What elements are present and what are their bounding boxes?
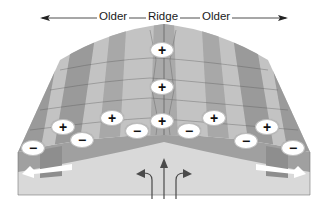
normal-polarity-marker: + (150, 79, 174, 95)
label-ridge: Ridge (146, 9, 180, 23)
label-older-right: Older (200, 9, 232, 23)
reversed-polarity-marker: − (21, 140, 45, 156)
normal-polarity-marker: + (150, 113, 174, 129)
normal-polarity-marker: + (100, 110, 124, 126)
normal-polarity-marker: + (150, 42, 174, 58)
normal-polarity-marker: + (51, 119, 75, 135)
normal-polarity-marker: + (255, 119, 279, 135)
reversed-polarity-marker: − (281, 140, 305, 156)
block-diagram (0, 0, 328, 209)
reversed-polarity-marker: − (70, 132, 94, 148)
seafloor-spreading-diagram: Older Ridge Older +++++++−−−−−− (0, 0, 328, 209)
reversed-polarity-marker: − (234, 133, 258, 149)
label-older-left: Older (97, 9, 129, 23)
reversed-polarity-marker: − (125, 123, 149, 139)
normal-polarity-marker: + (202, 110, 226, 126)
reversed-polarity-marker: − (177, 123, 201, 139)
